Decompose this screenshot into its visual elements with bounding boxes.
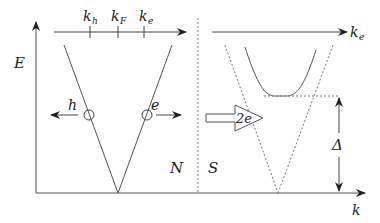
super-gapped-dispersion	[245, 47, 316, 96]
svg-text:e: e	[148, 16, 153, 26]
tick-label-ke: k e	[139, 8, 153, 26]
normal-dispersion	[64, 45, 172, 193]
energy-axis-label: E	[13, 54, 25, 72]
hole-label: h	[68, 97, 77, 113]
normal-region-label: N	[169, 159, 184, 177]
momentum-axis-label: k	[352, 202, 360, 218]
top-axis-normal	[54, 26, 186, 38]
top-axis-super-label: k e	[350, 24, 364, 42]
tick-label-kh: k h	[83, 8, 98, 26]
svg-text:F: F	[119, 16, 127, 26]
electron-label: e	[151, 97, 159, 113]
svg-text:k: k	[83, 8, 91, 24]
svg-text:k: k	[139, 8, 147, 24]
andreev-diagram: E k k h k F k e k e h	[0, 0, 380, 223]
svg-text:k: k	[111, 8, 119, 24]
cooper-pair-label: 2e	[235, 111, 252, 126]
svg-text:e: e	[359, 32, 364, 42]
svg-text:h: h	[92, 16, 98, 26]
gap-label: Δ	[331, 136, 343, 154]
superconductor-region-label: S	[208, 159, 218, 177]
cooper-pair-arrow	[206, 105, 263, 131]
tick-label-kf: k F	[111, 8, 127, 26]
svg-text:k: k	[350, 24, 358, 40]
